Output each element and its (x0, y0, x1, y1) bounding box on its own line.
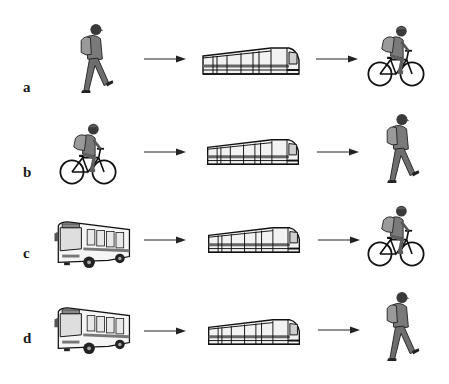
arrow-right-icon (144, 235, 186, 245)
arrow-right-icon (144, 54, 186, 64)
sequence-row-c: c (0, 192, 449, 288)
train-icon (206, 224, 302, 258)
walker-icon (378, 110, 424, 188)
arrow-right-icon (316, 54, 358, 64)
train-icon (206, 316, 302, 350)
train-icon (204, 136, 302, 170)
train-icon (201, 44, 301, 80)
arrow-right-icon (318, 235, 360, 245)
walker-icon (72, 20, 118, 98)
bus-icon (50, 220, 132, 270)
walker-icon (378, 288, 424, 366)
sequence-row-d: d (0, 288, 449, 384)
cyclist-icon (364, 24, 428, 90)
row-label: d (23, 330, 31, 347)
row-label: c (23, 245, 30, 262)
arrow-right-icon (144, 326, 186, 336)
arrow-right-icon (318, 325, 360, 335)
bus-icon (50, 306, 132, 356)
cyclist-icon (56, 122, 120, 188)
sequence-row-a: a (0, 0, 449, 96)
sequence-row-b: b (0, 96, 449, 192)
arrow-right-icon (144, 147, 186, 157)
row-label: a (23, 79, 31, 96)
row-label: b (23, 164, 31, 181)
arrow-right-icon (317, 147, 359, 157)
cyclist-icon (364, 204, 428, 270)
